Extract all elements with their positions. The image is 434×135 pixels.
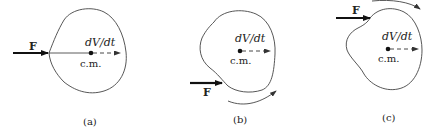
- rotation-arrow: [228, 91, 276, 104]
- force-label: F: [203, 86, 211, 99]
- acceleration-label: dV/dt: [235, 32, 266, 45]
- cm-label: c.m.: [230, 55, 251, 66]
- rotation-arrow: [372, 0, 420, 9]
- body-outline: [346, 9, 422, 90]
- force-diagram: F dV/dt c.m. (a) F dV/dt c.m. (b) F dV/d…: [0, 0, 434, 135]
- panel-a: F dV/dt c.m. (a): [13, 9, 126, 127]
- center-of-mass-dot: [386, 47, 391, 52]
- force-label: F: [29, 40, 37, 53]
- acceleration-label: dV/dt: [382, 30, 413, 43]
- panel-c: F dV/dt c.m. (c): [336, 0, 422, 123]
- panel-caption: (c): [382, 112, 396, 123]
- center-of-mass-dot: [238, 49, 243, 54]
- panel-b: F dV/dt c.m. (b): [190, 11, 276, 125]
- force-label: F: [352, 4, 360, 17]
- body-outline: [49, 9, 126, 93]
- center-of-mass-dot: [89, 51, 94, 56]
- panel-caption: (a): [83, 116, 97, 127]
- cm-label: c.m.: [378, 53, 399, 64]
- acceleration-label: dV/dt: [85, 36, 116, 49]
- panel-caption: (b): [233, 114, 247, 125]
- cm-label: c.m.: [80, 58, 101, 69]
